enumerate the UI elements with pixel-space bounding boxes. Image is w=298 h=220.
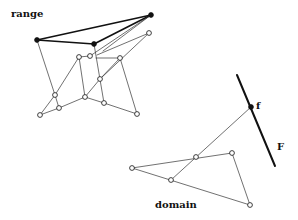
- range-open-point: [83, 95, 88, 100]
- range-edge: [85, 79, 100, 97]
- range-solid-point: [35, 38, 40, 43]
- range-open-point: [135, 112, 140, 117]
- diagram-canvas: range domain f F: [0, 0, 298, 220]
- line-F-segment: [237, 75, 275, 166]
- range-edge: [55, 57, 79, 95]
- range-edge: [120, 58, 137, 114]
- range-open-point: [77, 55, 82, 60]
- domain-open-point: [248, 203, 253, 208]
- range-open-point: [38, 113, 43, 118]
- range-open-point: [53, 93, 58, 98]
- range-open-point: [57, 106, 62, 111]
- domain-open-point: [169, 178, 174, 183]
- domain-edge: [171, 107, 251, 180]
- domain-open-point: [230, 151, 235, 156]
- range-open-point: [147, 31, 152, 36]
- domain-edge: [132, 153, 232, 168]
- line-F-label: F: [277, 142, 284, 152]
- range-edge: [37, 40, 55, 95]
- point-f: [249, 105, 254, 110]
- range-open-point: [88, 54, 93, 59]
- range-edge: [79, 57, 85, 97]
- line-F: [237, 75, 275, 166]
- domain-open-point: [130, 166, 135, 171]
- range-edge: [85, 97, 104, 103]
- solid-point-markers: [35, 13, 254, 110]
- range-solid-point: [149, 13, 154, 18]
- range-open-point: [118, 56, 123, 61]
- range-solid-point: [92, 42, 97, 47]
- range-network-edges: [37, 15, 151, 115]
- range-open-point: [98, 77, 103, 82]
- range-edge: [104, 103, 137, 114]
- open-point-markers: [38, 31, 253, 208]
- range-bold-edge: [94, 15, 151, 44]
- point-f-label: f: [256, 101, 260, 111]
- range-edge: [100, 58, 120, 79]
- range-edge: [59, 97, 85, 108]
- range-open-point: [102, 101, 107, 106]
- domain-range-diagram: [0, 0, 298, 220]
- domain-triangle-edges: [132, 107, 251, 205]
- domain-edge: [232, 153, 250, 205]
- range-label: range: [11, 9, 43, 19]
- range-bold-edge: [37, 40, 94, 44]
- domain-open-point: [194, 155, 199, 160]
- domain-label: domain: [155, 200, 197, 210]
